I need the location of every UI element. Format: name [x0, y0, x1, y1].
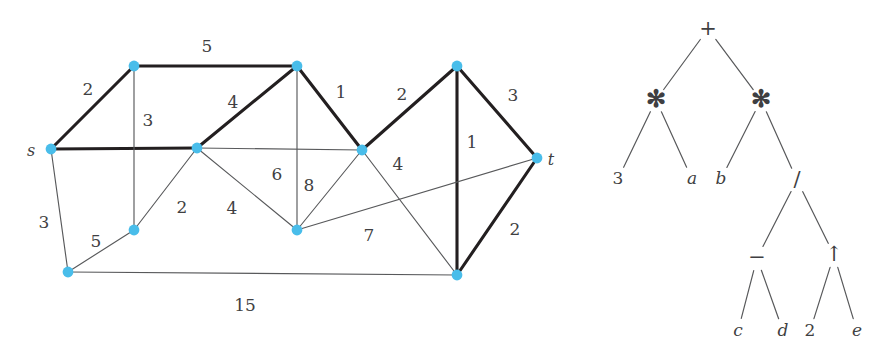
tree-node-div: /: [793, 167, 801, 191]
graph-node-n8: [63, 267, 74, 278]
tree-node-m1: ✻: [646, 84, 666, 113]
graph-vertex-label-t: t: [548, 150, 555, 169]
edge-weight-n4-n5: 2: [397, 84, 408, 104]
edge-weight-n7-t: 7: [364, 225, 375, 245]
graph-node-s: [46, 144, 57, 155]
graph-node-n7: [292, 225, 303, 236]
tree-edge-layer: [624, 39, 854, 318]
tree-edge-sub-ld: [761, 270, 778, 319]
graph-vertex-label-s: s: [27, 141, 35, 160]
tree-edge-div-pow: [803, 192, 828, 244]
graph-edge-layer: [51, 66, 537, 275]
tree-node-r: +: [699, 16, 717, 40]
figure-canvas: 2541231233524867415 st +✻✻3ab/−↑cd2e: [0, 0, 882, 360]
graph-node-n9: [452, 270, 463, 281]
edge-weight-n9-t: 2: [510, 219, 521, 239]
graph-edge-n7-t: [297, 158, 537, 230]
edge-weight-n2-n7: 8: [304, 175, 315, 195]
edge-weight-n4-n9: 4: [393, 154, 404, 174]
tree-edge-pow-l2: [814, 267, 830, 318]
graph-edge-n3-n7: [197, 148, 297, 230]
graph-edge-n9-t: [457, 158, 537, 275]
graph-node-n4: [357, 145, 368, 156]
tree-node-lc: c: [733, 320, 743, 340]
edge-weight-n1-n6: 3: [143, 110, 154, 130]
tree-node-m2: ✻: [751, 84, 771, 113]
graph-node-n3: [192, 143, 203, 154]
tree-edge-r-m1: [664, 39, 701, 89]
edge-weight-s-n8: 3: [39, 212, 50, 232]
tree-node-le: e: [852, 320, 862, 340]
tree-node-sub: −: [748, 245, 766, 269]
graph-node-n1: [129, 61, 140, 72]
edge-weight-n5-n9: 1: [467, 132, 478, 152]
tree-edge-m2-lb: [727, 112, 755, 168]
tree-node-l3: 3: [613, 168, 624, 188]
graph-edge-n6-n3: [134, 148, 197, 230]
graph-node-n6: [129, 225, 140, 236]
edge-weight-n4-n7: 6: [272, 164, 283, 184]
edge-weight-n3-n2: 4: [228, 92, 239, 112]
tree-edge-div-sub: [763, 192, 791, 247]
graph-edge-n4-n5: [362, 66, 457, 150]
edge-weight-n2-n4: 1: [336, 82, 347, 102]
graph-edge-n2-n4: [297, 66, 362, 150]
tree-edge-m2-div: [766, 112, 791, 168]
tree-node-pow: ↑: [825, 242, 843, 266]
edge-weight-n6-n8: 5: [91, 231, 102, 251]
tree-edge-m1-la: [661, 112, 686, 167]
graph-edge-s-n8: [51, 149, 68, 272]
figure-svg: 2541231233524867415 st +✻✻3ab/−↑cd2e: [0, 0, 882, 360]
graph-edge-n3-n2: [197, 66, 297, 148]
tree-node-la: a: [687, 168, 697, 188]
graph-edge-n3-n4: [197, 148, 362, 150]
edge-weight-n3-n7: 4: [227, 198, 238, 218]
tree-edge-m1-l3: [624, 112, 651, 168]
tree-edge-pow-le: [838, 267, 853, 318]
tree-node-l2: 2: [805, 320, 816, 340]
graph-edge-s-n3: [51, 148, 197, 149]
edge-weight-n6-n3: 2: [177, 197, 188, 217]
tree-node-ld: d: [778, 320, 789, 340]
tree-edge-sub-lc: [741, 271, 753, 319]
edge-weight-n5-t: 3: [508, 85, 519, 105]
graph-node-t: [532, 153, 543, 164]
edge-weight-s-n1: 2: [83, 79, 94, 99]
graph-node-layer: [46, 61, 543, 281]
tree-edge-r-m2: [716, 39, 753, 89]
graph-edge-n8-n9: [68, 272, 457, 275]
edge-weight-n8-n9: 15: [234, 295, 256, 315]
tree-node-lb: b: [716, 168, 727, 188]
tree-label-layer: +✻✻3ab/−↑cd2e: [613, 16, 862, 340]
edge-weight-n1-n2: 5: [202, 36, 213, 56]
graph-node-n2: [292, 61, 303, 72]
graph-node-n5: [452, 61, 463, 72]
graph-edge-n4-n9: [362, 150, 457, 275]
